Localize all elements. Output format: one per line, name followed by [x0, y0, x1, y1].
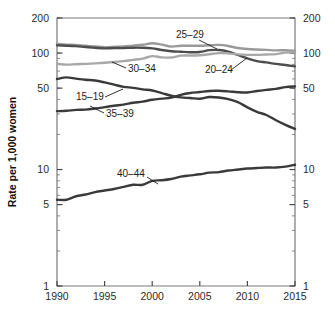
- annotation-leader-line: [112, 62, 126, 68]
- y-tick-label: 5: [43, 198, 49, 210]
- y-tick-label-right: 10: [303, 163, 315, 175]
- series-group: [57, 43, 295, 200]
- series-annotation-label: 25–29: [176, 29, 204, 40]
- annotation-leader-line: [231, 58, 247, 70]
- x-tick-label: 2000: [141, 290, 165, 302]
- series-line-15-19: [57, 77, 295, 129]
- series-line-40-44: [57, 165, 295, 200]
- y-tick-label: 10: [37, 163, 49, 175]
- annotation-leader-line: [105, 89, 123, 97]
- x-tick-label: 1995: [93, 290, 117, 302]
- x-tick-label: 2015: [283, 290, 307, 302]
- x-tick-label: 2005: [188, 290, 212, 302]
- y-tick-label-right: 5: [303, 198, 309, 210]
- y-tick-label: 200: [31, 12, 49, 24]
- series-annotation-label: 35–39: [106, 108, 134, 119]
- series-line-30-34: [57, 52, 295, 64]
- y-tick-label: 50: [37, 82, 49, 94]
- chart-canvas: 2002001001005050101055111990199520002005…: [0, 0, 335, 323]
- y-tick-label-right: 200: [303, 12, 321, 24]
- y-tick-label-right: 50: [303, 82, 315, 94]
- series-annotation-label: 15–19: [76, 91, 104, 102]
- y-tick-label-right: 100: [303, 47, 321, 59]
- series-annotation-label: 30–34: [128, 63, 156, 74]
- series-annotation-label: 40–44: [117, 168, 145, 179]
- y-tick-label: 100: [31, 47, 49, 59]
- birth-rate-chart: 2002001001005050101055111990199520002005…: [0, 0, 335, 323]
- plot-frame: [57, 18, 295, 286]
- y-axis-title: Rate per 1,000 women: [6, 97, 18, 207]
- series-annotation-label: 20–24: [205, 64, 233, 75]
- x-tick-label: 2010: [236, 290, 260, 302]
- x-tick-label: 1990: [45, 290, 69, 302]
